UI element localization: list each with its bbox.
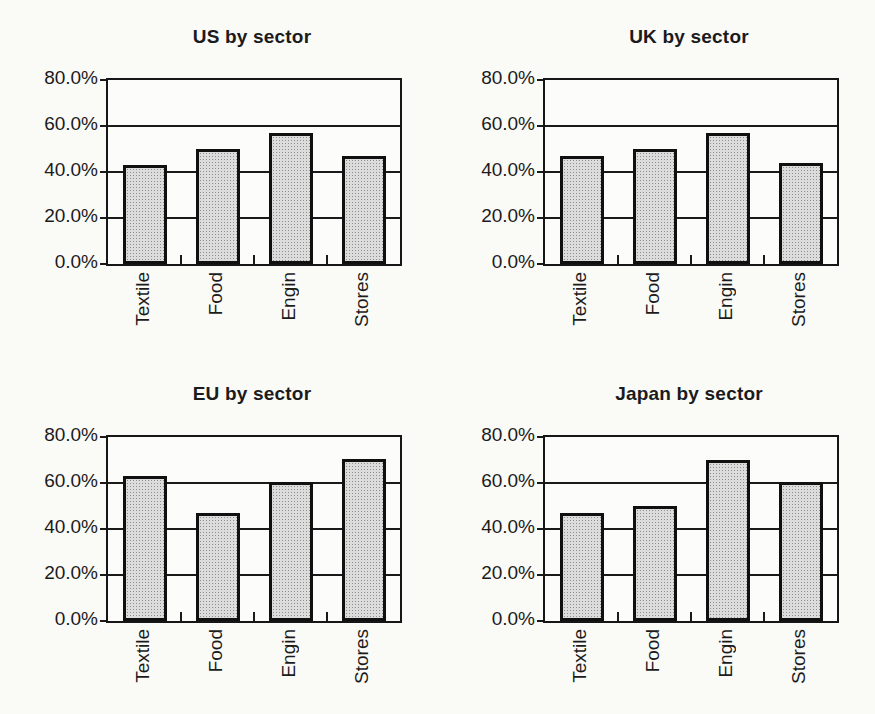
bar-engin	[269, 133, 313, 264]
y-axis-tick-label: 40.0%	[439, 516, 535, 538]
bar-textile	[123, 476, 167, 621]
bar-food	[196, 513, 240, 621]
x-category-label: Food	[205, 629, 227, 672]
x-category-label-text: Engin	[278, 272, 300, 321]
x-axis-minor-tick	[326, 612, 328, 621]
y-axis-tick	[537, 436, 543, 438]
bar-textile	[123, 165, 167, 264]
x-category-label-text: Textile	[132, 629, 154, 683]
x-category-label-text: Stores	[351, 629, 373, 684]
plot-area	[543, 435, 839, 623]
y-axis-tick	[100, 574, 106, 576]
chart-us-by-sector: US by sector80.0%60.0%40.0%20.0%0.0%Text…	[0, 0, 438, 357]
y-axis-tick-label: 0.0%	[2, 251, 98, 273]
x-category-label-text: Textile	[132, 272, 154, 326]
y-axis-tick	[537, 125, 543, 127]
x-category-label: Textile	[132, 629, 154, 683]
plot-area	[106, 78, 402, 266]
y-axis-tick	[537, 171, 543, 173]
x-category-label-text: Food	[642, 629, 664, 672]
x-category-label-text: Food	[205, 629, 227, 672]
bar-stores	[779, 163, 823, 264]
x-category-label-text: Stores	[788, 629, 810, 684]
x-category-label: Textile	[132, 272, 154, 326]
x-category-label: Textile	[569, 629, 591, 683]
chart-title: US by sector	[106, 26, 398, 48]
y-axis-tick	[100, 482, 106, 484]
x-axis-minor-tick	[253, 255, 255, 264]
gridline	[545, 125, 837, 127]
gridline	[108, 125, 400, 127]
x-category-label: Engin	[278, 272, 300, 321]
bar-food	[633, 149, 677, 264]
bar-stores	[342, 459, 386, 621]
x-axis-minor-tick	[326, 255, 328, 264]
x-axis-minor-tick	[763, 612, 765, 621]
y-axis-tick	[537, 482, 543, 484]
y-axis-tick	[100, 171, 106, 173]
x-category-label-text: Engin	[278, 629, 300, 678]
x-category-label: Food	[642, 629, 664, 672]
y-axis-tick	[100, 217, 106, 219]
y-axis-tick	[537, 263, 543, 265]
y-axis-tick-label: 20.0%	[2, 562, 98, 584]
x-axis-minor-tick	[180, 255, 182, 264]
y-axis-tick	[100, 528, 106, 530]
figure-panel-of-bar-charts: US by sector80.0%60.0%40.0%20.0%0.0%Text…	[0, 0, 875, 714]
x-category-label: Engin	[715, 629, 737, 678]
x-category-label: Stores	[788, 629, 810, 684]
x-axis-minor-tick	[617, 255, 619, 264]
chart-uk-by-sector: UK by sector80.0%60.0%40.0%20.0%0.0%Text…	[437, 0, 875, 357]
y-axis-tick	[100, 620, 106, 622]
y-axis-tick	[100, 125, 106, 127]
x-category-label: Stores	[788, 272, 810, 327]
bar-stores	[342, 156, 386, 264]
chart-title: Japan by sector	[543, 383, 835, 405]
x-category-label-text: Stores	[351, 272, 373, 327]
y-axis-tick-label: 40.0%	[2, 159, 98, 181]
bar-food	[196, 149, 240, 264]
y-axis-tick	[537, 528, 543, 530]
x-axis-minor-tick	[253, 612, 255, 621]
x-category-label: Engin	[715, 272, 737, 321]
x-axis-minor-tick	[690, 612, 692, 621]
x-category-label: Stores	[351, 629, 373, 684]
x-category-label: Stores	[351, 272, 373, 327]
y-axis-tick	[537, 79, 543, 81]
x-axis-minor-tick	[180, 612, 182, 621]
y-axis-tick-label: 60.0%	[2, 470, 98, 492]
x-category-label-text: Stores	[788, 272, 810, 327]
bar-textile	[560, 513, 604, 621]
y-axis-tick-label: 60.0%	[2, 113, 98, 135]
y-axis-tick	[537, 574, 543, 576]
chart-title: UK by sector	[543, 26, 835, 48]
bar-engin	[269, 482, 313, 621]
y-axis-tick-label: 80.0%	[2, 67, 98, 89]
bar-stores	[779, 482, 823, 621]
x-category-label: Food	[642, 272, 664, 315]
x-category-label: Textile	[569, 272, 591, 326]
x-axis-minor-tick	[690, 255, 692, 264]
y-axis-tick-label: 20.0%	[2, 205, 98, 227]
x-axis-minor-tick	[617, 612, 619, 621]
chart-title: EU by sector	[106, 383, 398, 405]
bar-engin	[706, 460, 750, 621]
y-axis-tick-label: 80.0%	[439, 424, 535, 446]
y-axis-tick	[537, 620, 543, 622]
x-category-label-text: Food	[205, 272, 227, 315]
y-axis-tick-label: 60.0%	[439, 113, 535, 135]
y-axis-tick-label: 40.0%	[439, 159, 535, 181]
x-axis-minor-tick	[763, 255, 765, 264]
bar-food	[633, 506, 677, 621]
x-category-label-text: Food	[642, 272, 664, 315]
plot-area	[106, 435, 402, 623]
y-axis-tick	[100, 436, 106, 438]
y-axis-tick-label: 40.0%	[2, 516, 98, 538]
x-category-label-text: Textile	[569, 272, 591, 326]
bar-textile	[560, 156, 604, 264]
y-axis-tick-label: 20.0%	[439, 205, 535, 227]
y-axis-tick-label: 80.0%	[439, 67, 535, 89]
x-category-label: Engin	[278, 629, 300, 678]
x-category-label-text: Textile	[569, 629, 591, 683]
y-axis-tick-label: 0.0%	[2, 608, 98, 630]
